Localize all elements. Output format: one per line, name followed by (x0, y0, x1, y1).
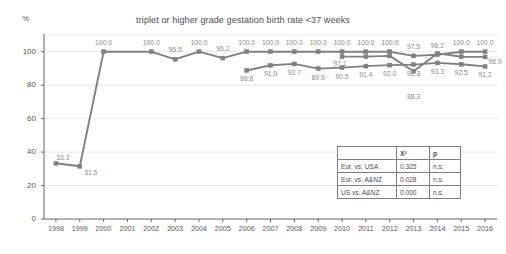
series-marker (459, 62, 463, 66)
series-marker (54, 161, 58, 165)
data-point-label: 91.9 (258, 70, 284, 77)
data-point-label: 90.5 (329, 73, 355, 80)
table-header-chi2: Χ² (397, 147, 430, 160)
data-point-label: 92.0 (377, 70, 403, 77)
y-tick-label: 60 (16, 114, 36, 123)
series-marker (78, 164, 82, 168)
series-marker (292, 62, 296, 66)
y-tick-label: 100 (16, 47, 36, 56)
series-marker (483, 50, 487, 54)
table-cell-p: n.s. (430, 186, 461, 199)
series-marker (269, 50, 273, 54)
series-marker (412, 54, 416, 58)
table-row: Eur. vs. USA0.325n.s. (338, 160, 461, 173)
series-marker (388, 63, 392, 67)
data-point-label: 88.3 (401, 93, 427, 100)
x-tick-label: 2013 (401, 224, 427, 233)
table-cell-comparison: Eur. vs. A&NZ (338, 173, 397, 186)
data-point-label: 100.0 (281, 39, 307, 46)
table-corner-cell (338, 147, 397, 160)
table-cell-p: n.s. (430, 173, 461, 186)
table-row: Eur. vs. A&NZ0.028n.s. (338, 173, 461, 186)
data-point-label: 91.2 (472, 71, 498, 78)
x-tick-label: 1999 (67, 224, 93, 233)
data-point-label: 33.3 (50, 154, 76, 161)
series-marker (388, 54, 392, 58)
series-marker (459, 50, 463, 54)
data-point-label: 89.9 (305, 74, 331, 81)
statistics-table: Χ² p Eur. vs. USA0.325n.s.Eur. vs. A&NZ0… (337, 146, 461, 199)
x-tick-label: 2011 (353, 224, 379, 233)
series-marker (483, 64, 487, 68)
data-point-label: 100.0 (305, 39, 331, 46)
x-tick-label: 2010 (329, 224, 355, 233)
data-point-label: 100.0 (234, 39, 260, 46)
series-marker (221, 56, 225, 60)
x-tick-label: 2009 (305, 224, 331, 233)
data-point-label: 88.8 (234, 75, 260, 82)
series-marker (340, 50, 344, 54)
y-tick-label: 40 (16, 147, 36, 156)
table-cell-chi2: 0.325 (397, 160, 430, 173)
series-marker (316, 67, 320, 71)
data-point-label: 100.0 (377, 39, 403, 46)
x-tick-label: 2004 (186, 224, 212, 233)
x-tick-label: 2008 (281, 224, 307, 233)
series-marker (102, 50, 106, 54)
data-point-label: 100.0 (138, 39, 164, 46)
data-point-label: 97.1 (327, 60, 353, 67)
chart-figure: % triplet or higher grade gestation birt… (0, 0, 506, 254)
series-marker (364, 64, 368, 68)
data-point-label: 100.0 (258, 39, 284, 46)
data-point-label: 31.5 (78, 169, 104, 176)
data-point-label: 100.0 (91, 39, 117, 46)
x-tick-label: 2002 (138, 224, 164, 233)
data-point-label: 100.0 (186, 39, 212, 46)
data-point-label: 92.5 (448, 69, 474, 76)
x-tick-label: 1998 (43, 224, 69, 233)
series-marker (292, 50, 296, 54)
table-cell-comparison: US vs. A&NZ (338, 186, 397, 199)
x-tick-label: 2014 (424, 224, 450, 233)
table-header-row: Χ² p (338, 147, 461, 160)
series-marker (245, 68, 249, 72)
statistics-table-head: Χ² p (338, 147, 461, 160)
data-point-label: 100.0 (472, 39, 498, 46)
series-marker (340, 55, 344, 59)
data-point-label: 95.5 (162, 46, 188, 53)
data-point-label: 96.2 (210, 45, 236, 52)
data-point-label: 91.4 (353, 71, 379, 78)
data-point-label: 100.0 (329, 39, 355, 46)
series-marker (269, 63, 273, 67)
y-tick-label: 0 (16, 214, 36, 223)
x-tick-label: 2000 (91, 224, 117, 233)
y-tick-label: 80 (16, 80, 36, 89)
series-marker (245, 50, 249, 54)
series-marker (388, 50, 392, 54)
table-cell-comparison: Eur. vs. USA (338, 160, 397, 173)
x-tick-label: 2012 (377, 224, 403, 233)
x-tick-label: 2006 (234, 224, 260, 233)
table-cell-chi2: 0.028 (397, 173, 430, 186)
series-marker (435, 51, 439, 55)
x-tick-label: 2007 (258, 224, 284, 233)
data-point-label: 93.3 (424, 68, 450, 75)
series-marker (316, 50, 320, 54)
x-tick-label: 2003 (162, 224, 188, 233)
table-row: US vs. A&NZ0.000n.s. (338, 186, 461, 199)
table-cell-p: n.s. (430, 160, 461, 173)
y-tick-label: 20 (16, 181, 36, 190)
table-cell-chi2: 0.000 (397, 186, 430, 199)
series-marker (149, 50, 153, 54)
series-marker (459, 55, 463, 59)
series-marker (435, 61, 439, 65)
x-tick-label: 2005 (210, 224, 236, 233)
x-tick-label: 2001 (114, 224, 140, 233)
data-point-label: 96.9 (482, 58, 506, 65)
x-tick-label: 2015 (448, 224, 474, 233)
series-marker (173, 57, 177, 61)
data-point-label: 92.3 (401, 70, 427, 77)
series-marker (364, 55, 368, 59)
data-point-label: 98.2 (424, 42, 450, 49)
statistics-table-body: Eur. vs. USA0.325n.s.Eur. vs. A&NZ0.028n… (338, 160, 461, 199)
